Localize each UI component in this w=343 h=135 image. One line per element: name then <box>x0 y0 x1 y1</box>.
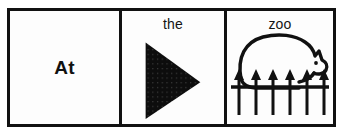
triangle-icon <box>122 11 224 124</box>
worksheet-strip: At the zoo <box>7 8 336 127</box>
panel-triangle[interactable]: the <box>119 11 227 124</box>
panel-zoo[interactable]: zoo <box>227 11 333 124</box>
panel-word-label: At <box>10 57 119 79</box>
bear-behind-fence-icon <box>227 11 333 124</box>
panel-word[interactable]: At <box>10 11 119 124</box>
